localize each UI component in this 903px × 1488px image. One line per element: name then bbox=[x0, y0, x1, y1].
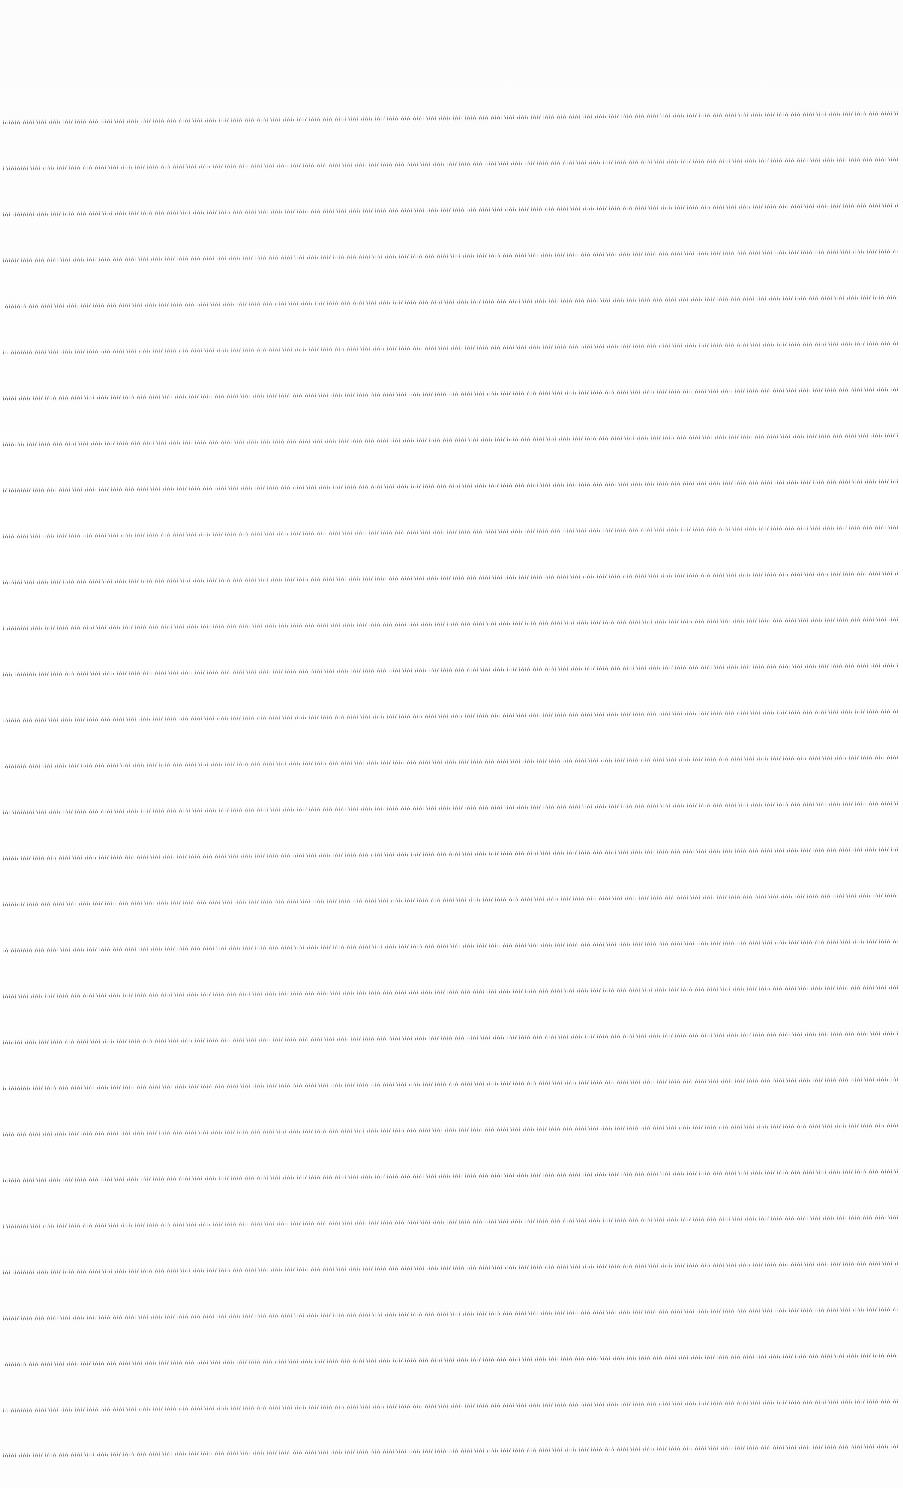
text-line bbox=[3, 939, 898, 953]
text-line bbox=[3, 295, 898, 309]
document-page bbox=[0, 0, 903, 1488]
text-line bbox=[3, 893, 898, 907]
text-line bbox=[3, 709, 898, 723]
text-line bbox=[3, 525, 898, 539]
text-line bbox=[3, 663, 898, 677]
text-line bbox=[3, 617, 898, 631]
text-line bbox=[3, 203, 898, 217]
text-line bbox=[3, 341, 898, 355]
text-line bbox=[3, 1169, 898, 1183]
text-line bbox=[3, 1399, 898, 1413]
text-line bbox=[3, 1123, 898, 1137]
text-line bbox=[3, 433, 898, 447]
text-line bbox=[3, 249, 898, 263]
text-line bbox=[3, 1307, 898, 1321]
text-line bbox=[3, 1077, 898, 1091]
text-line bbox=[3, 111, 898, 125]
text-line bbox=[3, 847, 898, 861]
text-line bbox=[3, 387, 898, 401]
text-line bbox=[3, 1444, 898, 1458]
text-block bbox=[0, 0, 903, 1488]
text-line bbox=[3, 1215, 898, 1229]
text-line bbox=[3, 801, 898, 815]
text-line bbox=[3, 479, 898, 493]
text-line bbox=[3, 1031, 898, 1045]
text-line bbox=[3, 571, 898, 585]
text-line bbox=[3, 1261, 898, 1275]
text-line bbox=[3, 985, 898, 999]
text-line bbox=[3, 157, 898, 171]
text-line bbox=[3, 1353, 898, 1367]
text-line bbox=[3, 755, 898, 769]
